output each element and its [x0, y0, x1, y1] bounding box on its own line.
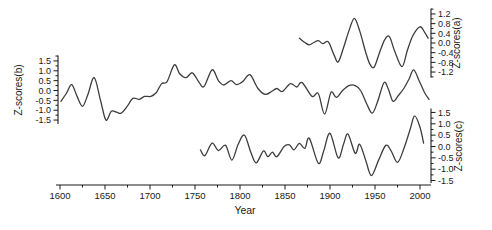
y-axis-title-c: Z-scores(c)	[453, 121, 464, 172]
y-axis-c: 1.51.00.50.0-0.5-1.0-1.5Z-scores(c)	[431, 108, 464, 186]
y-tick-label: 0.0	[438, 142, 451, 152]
y-tick-label: 1.2	[438, 9, 451, 19]
y-axis-title-a: Z-scores(a)	[451, 17, 462, 68]
y-axis-title-b: Z-scores(b)	[13, 64, 24, 115]
x-tick-label: 1750	[184, 190, 205, 201]
y-tick-label: 0.4	[438, 29, 451, 39]
y-axis-b: 1.51.00.50.0-0.5-1.0-1.5Z-scores(b)	[13, 56, 58, 126]
x-axis: 160016501700175018001850190019502000Year	[49, 185, 431, 216]
zscore-time-series-figure: 160016501700175018001850190019502000Year…	[0, 0, 492, 230]
x-tick-label: 1950	[364, 190, 385, 201]
y-tick-label: 0.5	[38, 76, 51, 86]
y-tick-label: 0.8	[438, 19, 451, 29]
y-tick-label: -1.5	[35, 115, 51, 125]
y-tick-label: 1.5	[38, 56, 51, 66]
series-b-path	[61, 65, 429, 120]
y-tick-label: -1.0	[35, 105, 51, 115]
x-tick-label: 2000	[409, 190, 430, 201]
x-tick-label: 1800	[229, 190, 250, 201]
x-tick-label: 1850	[274, 190, 295, 201]
y-tick-label: -0.5	[438, 153, 454, 163]
y-tick-label: 0.5	[438, 130, 451, 140]
x-tick-label: 1600	[49, 190, 70, 201]
y-tick-label: -1.0	[438, 164, 454, 174]
y-tick-label: 1.0	[38, 66, 51, 76]
y-tick-label: 1.0	[438, 119, 451, 129]
series-a-path	[299, 18, 428, 67]
x-axis-title: Year	[234, 204, 256, 216]
x-tick-label: 1700	[139, 190, 160, 201]
y-tick-label: 1.5	[438, 108, 451, 118]
y-tick-label: 0.0	[438, 38, 451, 48]
y-tick-label: -0.5	[35, 96, 51, 106]
y-tick-label: 0.0	[38, 86, 51, 96]
zscores-chart: 160016501700175018001850190019502000Year…	[0, 0, 492, 230]
x-tick-label: 1650	[94, 190, 115, 201]
x-tick-label: 1900	[319, 190, 340, 201]
y-tick-label: -1.5	[438, 176, 454, 186]
y-axis-a: 1.20.80.40.0-0.4-0.8-1.2Z-scores(a)	[431, 9, 462, 78]
series-c-path	[200, 116, 423, 176]
